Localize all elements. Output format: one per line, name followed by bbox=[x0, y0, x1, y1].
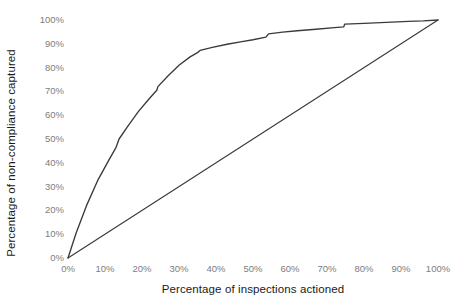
x-tick-label: 100% bbox=[426, 264, 450, 274]
cumulative-gain-chart: Percentage of non-compliance captured 0%… bbox=[0, 0, 469, 306]
x-tick-label: 80% bbox=[354, 264, 373, 274]
x-tick-label: 70% bbox=[317, 264, 336, 274]
x-axis-title: Percentage of inspections actioned bbox=[68, 283, 438, 295]
x-axis-tick-labels: 0%10%20%30%40%50%60%70%80%90%100% bbox=[0, 0, 469, 306]
x-tick-label: 50% bbox=[243, 264, 262, 274]
x-tick-label: 60% bbox=[280, 264, 299, 274]
x-tick-label: 30% bbox=[169, 264, 188, 274]
x-tick-label: 40% bbox=[206, 264, 225, 274]
x-tick-label: 90% bbox=[391, 264, 410, 274]
x-tick-label: 20% bbox=[132, 264, 151, 274]
x-tick-label: 10% bbox=[95, 264, 114, 274]
x-tick-label: 0% bbox=[61, 264, 75, 274]
